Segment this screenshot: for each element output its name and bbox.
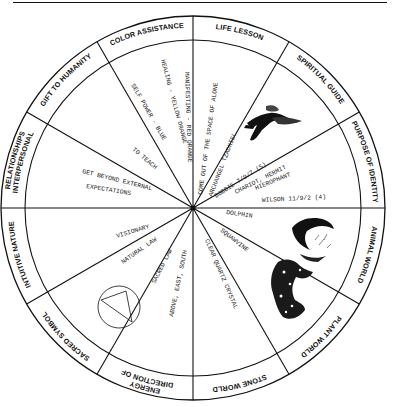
entry-natural-law: NATURAL LAW <box>120 236 158 266</box>
medicine-wheel-diagram: LIFE LESSON SPIRITUAL GUIDE PURPOSE OF I… <box>0 0 393 407</box>
entry-dolphin: DOLPHIN <box>226 209 253 220</box>
label-stone-world: STONE WORLD <box>212 373 268 395</box>
entry-squawvine: SQUAWVINE <box>219 227 250 254</box>
entry-directions: ABOVE, EAST, SOUTH <box>168 249 189 317</box>
triangle-in-circle-icon <box>98 286 140 328</box>
entry-manifesting: MANIFESTING - RED ORANGE <box>183 72 193 163</box>
entry-to-teach: TO TEACH <box>131 146 159 171</box>
label-color-assistance: COLOR ASSISTANCE <box>108 21 184 47</box>
label-sacred-symbol: SACRED SYMBOL <box>39 310 91 363</box>
center-hub <box>191 206 196 211</box>
entry-self-power: SELF POWER - BLUE <box>129 83 167 142</box>
label-plant-world: PLANT WORLD <box>299 314 344 360</box>
plant-illustration <box>271 259 313 318</box>
angel-illustration <box>244 105 302 140</box>
dolphin-illustration <box>292 218 334 262</box>
label-spiritual-guide: SPIRITUAL GUIDE <box>295 53 346 106</box>
entry-wilson: WILSON 11/9/2 (4) <box>262 194 327 204</box>
entry-quartz: CLEAR QUARTZ CRYSTAL <box>203 238 239 311</box>
entry-visionary: VISIONARY <box>116 223 151 240</box>
label-life-lesson: LIFE LESSON <box>215 22 265 42</box>
label-intuitive-nature: INTUITIVE NATURE <box>6 221 32 290</box>
entry-sacred-law: SACRED LAW <box>151 248 174 285</box>
